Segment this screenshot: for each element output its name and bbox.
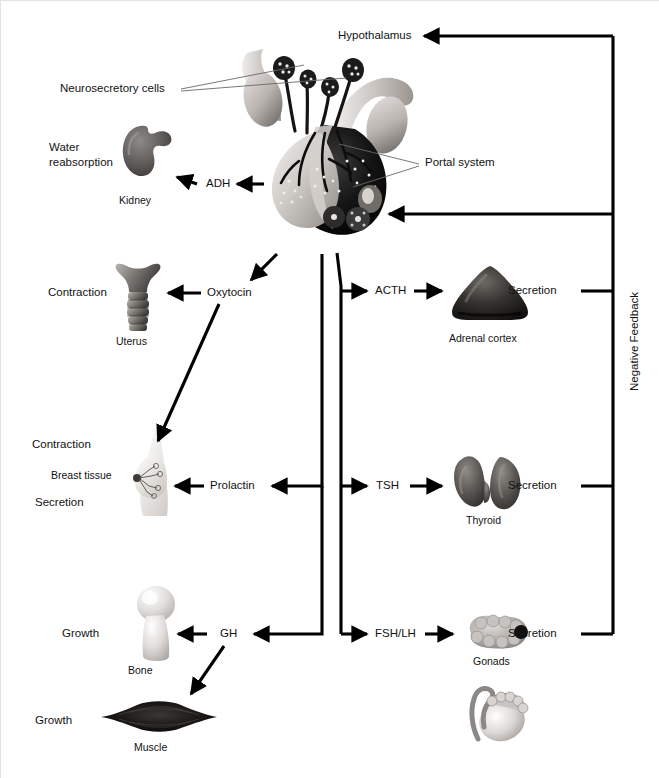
organ-adrenal-cortex: Adrenal cortex: [449, 332, 517, 346]
hormone-adh: ADH: [206, 177, 230, 191]
hormone-tsh: TSH: [376, 479, 399, 493]
effect-muscle-growth: Growth: [35, 714, 72, 728]
diagram-canvas: Hypothalamus Neurosecretory cells Portal…: [0, 0, 659, 778]
organ-uterus: Uterus: [116, 335, 147, 349]
hormone-prolactin: Prolactin: [210, 479, 255, 493]
effect-thyroid-secretion: Secretion: [508, 479, 557, 493]
bone-illustration: [129, 584, 185, 662]
effect-bone-growth: Growth: [62, 627, 99, 641]
hormone-acth: ACTH: [375, 284, 406, 298]
pituitary-gland-illustration: [229, 41, 444, 271]
label-neurosecretory-cells: Neurosecretory cells: [60, 82, 165, 96]
effect-adrenal-secretion: Secretion: [508, 284, 557, 298]
effect-gonad-secretion: Secretion: [508, 627, 557, 641]
kidney-illustration: [116, 121, 178, 183]
organ-kidney: Kidney: [119, 194, 151, 208]
testis-illustration: [464, 683, 536, 749]
organ-thyroid: Thyroid: [466, 514, 501, 528]
hormone-gh: GH: [220, 627, 237, 641]
effect-breast-contraction: Contraction: [32, 438, 91, 452]
organ-breast-tissue: Breast tissue: [51, 469, 112, 483]
organ-bone: Bone: [128, 664, 153, 678]
effect-uterus-contraction: Contraction: [48, 286, 107, 300]
effect-water-reabsorption-line1: Water: [49, 141, 79, 155]
muscle-illustration: [99, 695, 219, 739]
effect-water-reabsorption-line2: reabsorption: [49, 156, 113, 170]
breast-tissue-illustration: [129, 426, 191, 518]
label-portal-system: Portal system: [425, 156, 495, 170]
hormone-fsh-lh: FSH/LH: [375, 627, 416, 641]
label-negative-feedback: Negative Feedback: [628, 292, 640, 391]
organ-muscle: Muscle: [134, 741, 167, 755]
effect-breast-secretion: Secretion: [35, 496, 84, 510]
node-hypothalamus: Hypothalamus: [338, 29, 412, 43]
hormone-oxytocin: Oxytocin: [207, 286, 252, 300]
uterus-illustration: [109, 259, 167, 337]
organ-gonads: Gonads: [473, 655, 510, 669]
